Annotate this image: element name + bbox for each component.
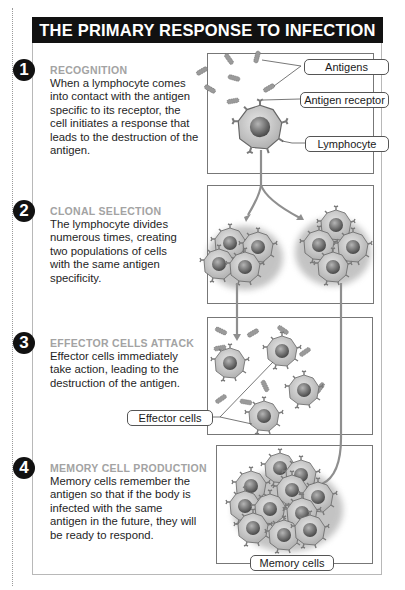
memory-cells-label: Memory cells xyxy=(250,555,334,571)
clonal-cluster-left xyxy=(200,224,283,290)
lymphocyte-label: Lymphocyte xyxy=(305,136,389,152)
memory-cell-cluster xyxy=(226,449,343,553)
effector-cells-label: Effector cells xyxy=(127,410,213,426)
clonal-cluster-right xyxy=(295,206,372,286)
antigens-label: Antigens xyxy=(304,59,389,75)
immune-response-illustration xyxy=(0,0,405,590)
antigen-receptor-label: Antigen receptor xyxy=(300,92,389,108)
antigen-particles xyxy=(196,51,276,105)
